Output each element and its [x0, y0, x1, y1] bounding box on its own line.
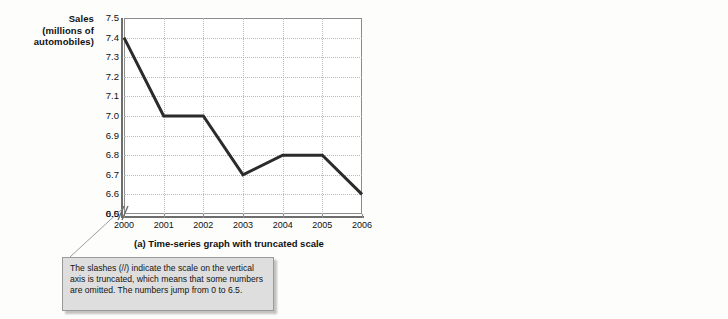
x-axis-tick-mark	[243, 214, 244, 218]
y-axis-tick-label: 7.0	[106, 111, 119, 121]
x-axis-tick-mark	[164, 214, 165, 218]
axis-break-icon	[115, 203, 131, 221]
y-axis-tick-label: 6.7	[106, 170, 119, 180]
y-axis-tick-label: 7.2	[106, 72, 119, 82]
y-axis-tick-label: 7.3	[106, 52, 119, 62]
annotation-text: The slashes (//) indicate the scale on t…	[63, 258, 273, 299]
x-axis-tick-label: 2004	[266, 220, 300, 230]
x-axis-tick-label: 2005	[305, 220, 339, 230]
y-axis-tick-label: 6.9	[106, 131, 119, 141]
y-axis-tick-label: 6.8	[106, 150, 119, 160]
y-axis-title-line-2: (millions of	[8, 25, 94, 37]
series-line-a	[124, 18, 362, 214]
x-axis-tick-mark	[283, 214, 284, 218]
plot-area-a	[124, 18, 362, 214]
chart-panel-a: Sales (millions of automobiles) 7.57.47.…	[0, 0, 372, 260]
x-axis-tick-label: 2000	[107, 220, 141, 230]
caption-a: (a) Time-series graph with truncated sca…	[134, 238, 374, 250]
x-axis-tick-label: 2002	[186, 220, 220, 230]
y-axis-tick-label: 7.5	[106, 13, 119, 23]
y-axis-tick-label: 7.1	[106, 91, 119, 101]
y-axis-title-line-1: Sales	[8, 13, 94, 25]
x-axis-tick-label: 2003	[226, 220, 260, 230]
y-axis-title-line-3: automobiles)	[8, 36, 94, 48]
chart-panel-b: Sales (millions of automobiles) 8.07.06.…	[372, 0, 728, 260]
x-axis-tick-mark	[203, 214, 204, 218]
x-axis-tick-mark	[322, 214, 323, 218]
annotation-callout: The slashes (//) indicate the scale on t…	[62, 257, 274, 311]
x-axis-tick-marks-a	[124, 214, 362, 219]
x-axis-tick-label: 2001	[147, 220, 181, 230]
y-axis-title-a: Sales (millions of automobiles)	[8, 13, 94, 48]
y-axis-spine-a	[121, 18, 123, 218]
x-axis-tick-mark	[362, 214, 363, 218]
y-axis-tick-label: 6.6	[106, 189, 119, 199]
figure-root: Sales (millions of automobiles) 7.57.47.…	[0, 0, 728, 319]
y-axis-tick-label: 7.4	[106, 33, 119, 43]
x-axis-tick-labels-a: 2000200120022003200420052006	[124, 220, 362, 234]
